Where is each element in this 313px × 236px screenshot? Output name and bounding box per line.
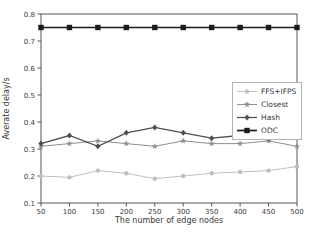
y-axis-label: Averate delay/s <box>2 77 11 139</box>
legend-label: FFS+IFPS <box>261 87 296 96</box>
series-marker <box>153 177 157 181</box>
legend-item: FFS+IFPS <box>237 85 296 98</box>
series-marker <box>96 168 100 172</box>
series-marker <box>67 133 72 139</box>
series-marker <box>124 130 129 136</box>
series-marker <box>67 175 71 179</box>
y-tick-label: 0.3 <box>24 146 35 154</box>
y-tick-label: 0.1 <box>24 200 35 208</box>
series-marker <box>244 101 250 107</box>
legend: FFS+IFPSClosestHashODC <box>232 82 302 140</box>
series-marker <box>244 115 249 121</box>
series-marker <box>152 124 157 130</box>
diamond-marker-icon <box>237 112 257 123</box>
series-marker <box>209 135 214 141</box>
x-tick-label: 350 <box>205 208 218 216</box>
legend-item: ODC <box>237 124 296 137</box>
series-marker <box>237 140 243 146</box>
x-tick-label: 450 <box>262 208 275 216</box>
series-marker <box>244 128 249 133</box>
x-tick-label: 50 <box>37 208 46 216</box>
series-marker <box>181 25 186 30</box>
legend-label: Hash <box>261 113 280 122</box>
x-tick-label: 150 <box>91 208 104 216</box>
series-marker <box>38 25 43 30</box>
y-tick-label: 0.5 <box>24 92 35 100</box>
x-tick-label: 200 <box>120 208 133 216</box>
y-tick-label: 0.8 <box>24 11 35 19</box>
series-marker <box>95 138 101 144</box>
series-marker <box>39 174 43 178</box>
series-marker <box>238 170 242 174</box>
series-marker <box>123 140 129 146</box>
circle-marker-icon <box>237 86 257 97</box>
series-marker <box>95 25 100 30</box>
series-marker <box>295 164 299 168</box>
x-axis-label: The number of edge nodes <box>114 216 223 225</box>
series-marker <box>209 25 214 30</box>
series-marker <box>95 143 100 149</box>
x-tick-label: 300 <box>177 208 190 216</box>
y-tick-label: 0.7 <box>24 38 35 46</box>
series-marker <box>181 130 186 136</box>
legend-item: Closest <box>237 98 296 111</box>
x-tick-label: 400 <box>233 208 246 216</box>
star-marker-icon <box>237 99 257 110</box>
legend-item: Hash <box>237 111 296 124</box>
legend-label: Closest <box>261 100 288 109</box>
series-marker <box>294 25 299 30</box>
series-marker <box>266 25 271 30</box>
series-marker <box>180 138 186 144</box>
series-marker <box>245 89 249 93</box>
square-marker-icon <box>237 125 257 136</box>
series-marker <box>181 174 185 178</box>
x-tick-label: 500 <box>290 208 303 216</box>
series-marker <box>124 25 129 30</box>
figure: 501001502002503003504004505000.10.20.30.… <box>0 0 313 236</box>
x-tick-label: 250 <box>148 208 161 216</box>
series-line-ffs-ifps <box>41 167 297 179</box>
series-marker <box>152 143 158 149</box>
x-tick-label: 100 <box>63 208 76 216</box>
series-marker <box>237 25 242 30</box>
y-tick-label: 0.6 <box>24 65 36 73</box>
series-marker <box>124 171 128 175</box>
series-marker <box>67 25 72 30</box>
series-marker <box>152 25 157 30</box>
y-tick-label: 0.4 <box>24 119 36 127</box>
y-tick-label: 0.2 <box>24 173 35 181</box>
series-line-closest <box>41 141 297 146</box>
series-marker <box>209 171 213 175</box>
legend-label: ODC <box>261 126 278 135</box>
series-marker <box>266 168 270 172</box>
series-marker <box>66 140 72 146</box>
